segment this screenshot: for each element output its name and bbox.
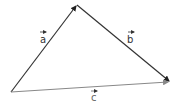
- svg-text:b: b: [127, 34, 133, 45]
- vector-b-arrow: [77, 5, 169, 81]
- svg-text:c: c: [91, 92, 97, 103]
- label-a: a: [40, 32, 46, 45]
- svg-text:a: a: [40, 34, 46, 45]
- label-c: c: [91, 91, 97, 103]
- vector-a-arrow: [11, 6, 76, 92]
- vector-c-arrow: [11, 82, 168, 92]
- label-b: b: [127, 32, 134, 45]
- vector-triangle-diagram: a b c: [0, 0, 180, 104]
